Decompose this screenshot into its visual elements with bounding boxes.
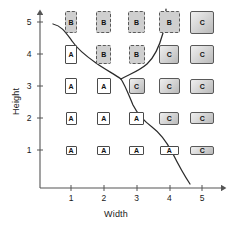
data-point-label: A: [101, 147, 106, 154]
y-tick-label-4: 4: [22, 49, 36, 59]
y-tick-label-5: 5: [22, 17, 36, 27]
data-point-c-w4-h4: C: [159, 45, 179, 64]
x-axis-title: Width: [0, 209, 232, 219]
data-point-label: C: [167, 83, 172, 90]
data-point-label: B: [134, 19, 139, 26]
data-point-label: C: [200, 51, 205, 58]
classification-scatter-chart: BBBBCABBCCAACCCAAACCAAAAC 12345 12345 Wi…: [0, 0, 232, 228]
data-point-a-w2-h3: A: [97, 78, 111, 94]
x-tick-label-1: 1: [64, 193, 78, 203]
data-point-a-w4-h1: A: [160, 146, 179, 155]
x-tick-label-3: 3: [130, 193, 144, 203]
data-point-a-w3-h1: A: [129, 146, 144, 155]
data-point-label: C: [167, 51, 172, 58]
data-point-a-w2-h2: A: [97, 112, 110, 125]
data-point-label: A: [68, 115, 73, 122]
boundary-lower: [121, 79, 190, 184]
data-point-label: B: [167, 19, 172, 26]
data-point-c-w5-h2: C: [190, 112, 214, 124]
data-point-label: A: [134, 115, 139, 122]
data-point-label: C: [200, 19, 205, 26]
x-tick-label-2: 2: [97, 193, 111, 203]
data-point-a-w2-h1: A: [97, 146, 110, 155]
x-tick-label-5: 5: [195, 193, 209, 203]
data-point-b-w1-h5: B: [65, 11, 77, 33]
data-point-a-w3-h2: A: [129, 112, 144, 125]
data-point-b-w2-h5: B: [96, 11, 111, 33]
data-point-c-w5-h4: C: [190, 45, 214, 64]
data-point-label: B: [134, 51, 139, 58]
data-point-a-w1-h2: A: [66, 112, 77, 125]
data-point-c-w5-h3: C: [190, 79, 214, 94]
data-point-c-w3-h3: C: [129, 78, 145, 94]
data-point-label: B: [101, 19, 106, 26]
data-point-a-w1-h1: A: [66, 146, 77, 155]
x-tick-label-4: 4: [162, 193, 176, 203]
data-point-a-w1-h4: A: [65, 45, 77, 64]
data-point-c-w5-h1: C: [190, 146, 214, 155]
data-point-c-w4-h3: C: [159, 78, 180, 94]
y-axis-title: Height: [11, 88, 21, 115]
data-point-label: A: [101, 83, 106, 90]
data-point-label: A: [68, 147, 73, 154]
data-point-b-w2-h4: B: [96, 45, 111, 64]
data-point-label: A: [134, 147, 139, 154]
decision-boundary-curves: [53, 9, 190, 184]
data-point-label: B: [101, 51, 106, 58]
data-point-c-w4-h2: C: [159, 112, 179, 125]
data-point-label: C: [167, 115, 172, 122]
data-point-label: C: [200, 147, 205, 154]
data-point-c-w5-h5: C: [190, 11, 214, 34]
y-tick-label-1: 1: [22, 145, 36, 155]
data-point-label: C: [134, 83, 139, 90]
data-point-b-w4-h5: B: [159, 11, 180, 33]
y-tick-label-3: 3: [22, 81, 36, 91]
data-point-label: A: [167, 147, 172, 154]
data-point-label: B: [68, 19, 73, 26]
y-tick-label-2: 2: [22, 113, 36, 123]
data-point-label: A: [68, 83, 73, 90]
data-point-label: A: [101, 115, 106, 122]
data-point-label: A: [68, 51, 73, 58]
data-point-label: C: [200, 83, 205, 90]
data-point-label: C: [200, 115, 205, 122]
data-point-b-w3-h4: B: [129, 45, 145, 64]
data-point-a-w1-h3: A: [65, 78, 77, 94]
data-point-b-w3-h5: B: [128, 11, 145, 33]
